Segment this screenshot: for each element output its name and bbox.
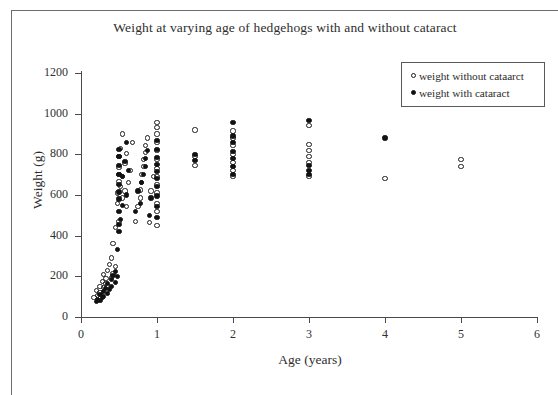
data-point: [154, 125, 159, 130]
scatter-chart: Weight at varying age of hedgehogs with …: [0, 0, 558, 395]
data-point: [122, 159, 127, 164]
data-point: [126, 168, 131, 173]
x-tick: [461, 317, 462, 323]
data-point: [154, 184, 159, 189]
data-point: [382, 135, 387, 140]
data-point: [118, 217, 123, 222]
x-tick-label: 5: [449, 327, 473, 342]
data-point: [124, 140, 129, 145]
data-point: [192, 158, 197, 163]
x-tick-label: 4: [373, 327, 397, 342]
data-point: [115, 274, 120, 279]
x-tick-label: 6: [525, 327, 549, 342]
chart-legend: weight without cataarctweight with catar…: [401, 62, 545, 107]
data-point: [306, 118, 311, 123]
data-point: [306, 163, 311, 168]
data-point: [113, 264, 118, 269]
data-point: [148, 188, 153, 193]
x-tick: [81, 317, 82, 323]
x-tick: [537, 317, 538, 323]
y-tick-label: 1200: [28, 65, 68, 80]
data-point: [107, 262, 112, 267]
y-tick-label: 200: [28, 268, 68, 283]
data-point: [113, 280, 118, 285]
x-tick-label: 2: [221, 327, 245, 342]
x-tick-label: 3: [297, 327, 321, 342]
data-point: [230, 149, 235, 154]
data-point: [147, 220, 152, 225]
data-point: [116, 222, 121, 227]
chart-title: Weight at varying age of hedgehogs with …: [40, 20, 530, 36]
data-point: [138, 195, 143, 200]
data-point: [230, 164, 235, 169]
data-point: [154, 193, 159, 198]
data-point: [110, 241, 115, 246]
open-circle-icon: [407, 73, 419, 78]
filled-circle-icon: [407, 90, 419, 95]
data-point: [145, 135, 150, 140]
data-point: [135, 188, 140, 193]
data-point: [230, 156, 235, 161]
data-point: [306, 123, 311, 128]
data-point: [154, 223, 159, 228]
x-tick: [157, 317, 158, 323]
y-tick-label: 1000: [28, 106, 68, 121]
data-point: [458, 157, 463, 162]
data-point: [143, 143, 148, 148]
x-tick: [233, 317, 234, 323]
data-point: [306, 142, 311, 147]
data-point: [230, 120, 235, 125]
plot-area: [81, 73, 537, 317]
data-point: [154, 155, 159, 160]
data-point: [192, 127, 197, 132]
data-point: [192, 152, 197, 157]
legend-item-label: weight with cataract: [419, 87, 510, 99]
data-point: [109, 255, 114, 260]
data-point: [143, 156, 148, 161]
data-point: [141, 172, 146, 177]
data-point: [130, 140, 135, 145]
data-point: [154, 147, 159, 152]
data-point: [115, 247, 120, 252]
data-point: [116, 189, 121, 194]
y-tick-label: 0: [28, 309, 68, 324]
data-point: [306, 148, 311, 153]
data-point: [154, 169, 159, 174]
legend-item-label: weight without cataarct: [419, 70, 524, 82]
data-point: [124, 192, 129, 197]
data-point: [145, 148, 150, 153]
y-axis-title: Weight (g): [30, 120, 46, 240]
x-axis-title: Age (years): [160, 352, 460, 368]
data-point: [120, 131, 125, 136]
data-point: [230, 133, 235, 138]
data-point: [230, 140, 235, 145]
data-point: [154, 120, 159, 125]
data-point: [230, 172, 235, 177]
data-point: [116, 163, 121, 168]
data-point: [192, 163, 197, 168]
data-point: [154, 204, 159, 209]
x-tick-label: 1: [145, 327, 169, 342]
x-tick: [309, 317, 310, 323]
data-point: [154, 215, 159, 220]
data-point: [139, 180, 144, 185]
data-point: [154, 131, 159, 136]
data-point: [126, 180, 131, 185]
data-point: [138, 201, 143, 206]
data-point: [116, 154, 121, 159]
data-point: [143, 164, 148, 169]
data-point: [154, 209, 159, 214]
data-point: [116, 229, 121, 234]
data-point: [133, 219, 138, 224]
legend-item: weight without cataarct: [407, 67, 539, 84]
data-point: [116, 147, 121, 152]
data-point: [458, 164, 463, 169]
data-point: [124, 151, 129, 156]
data-point: [154, 162, 159, 167]
data-point: [154, 176, 159, 181]
data-point: [133, 209, 138, 214]
data-point: [147, 213, 152, 218]
legend-item: weight with cataract: [407, 84, 539, 101]
data-point: [306, 154, 311, 159]
data-point: [116, 196, 121, 201]
